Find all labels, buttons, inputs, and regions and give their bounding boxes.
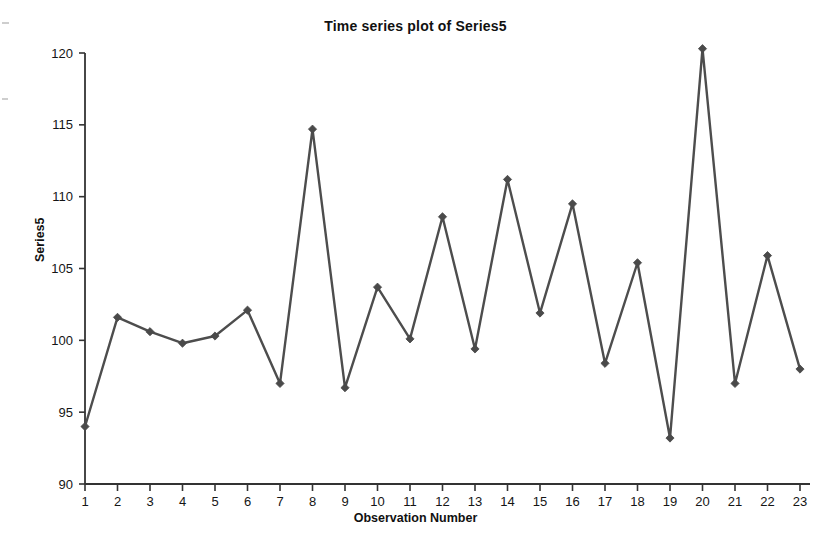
data-point-marker — [763, 251, 771, 259]
data-series-line — [85, 49, 800, 438]
x-tick-label: 8 — [309, 494, 316, 509]
data-point-marker — [471, 345, 479, 353]
x-tick-label: 4 — [179, 494, 186, 509]
data-point-marker — [146, 328, 154, 336]
y-tick-label: 90 — [59, 477, 73, 492]
scan-artifact — [2, 98, 8, 100]
data-point-marker — [503, 175, 511, 183]
x-tick-label: 16 — [565, 494, 579, 509]
data-point-marker — [601, 359, 609, 367]
x-tick-label: 20 — [695, 494, 709, 509]
time-series-chart: Time series plot of Series5 909510010511… — [0, 0, 831, 557]
x-tick-label: 1 — [81, 494, 88, 509]
data-point-marker — [568, 200, 576, 208]
x-tick-label: 7 — [276, 494, 283, 509]
x-tick-label: 5 — [211, 494, 218, 509]
x-tick-label: 6 — [244, 494, 251, 509]
y-tick-label: 105 — [51, 261, 73, 276]
x-tick-label: 17 — [598, 494, 612, 509]
x-tick-label: 3 — [146, 494, 153, 509]
x-tick-label: 2 — [114, 494, 121, 509]
data-point-marker — [666, 434, 674, 442]
x-tick-label: 22 — [760, 494, 774, 509]
data-point-marker — [81, 422, 89, 430]
x-tick-label: 21 — [728, 494, 742, 509]
data-point-marker — [796, 365, 804, 373]
data-point-marker — [113, 313, 121, 321]
y-tick-label: 120 — [51, 46, 73, 61]
y-axis-label: Series5 — [33, 248, 47, 262]
data-point-marker — [731, 379, 739, 387]
x-axis-ticks: 1234567891011121314151617181920212223 — [81, 484, 807, 509]
x-tick-label: 13 — [468, 494, 482, 509]
scan-artifact — [2, 22, 9, 24]
x-tick-label: 12 — [435, 494, 449, 509]
data-point-marker — [438, 213, 446, 221]
data-point-marker — [633, 259, 641, 267]
data-point-marker — [698, 45, 706, 53]
x-tick-label: 9 — [341, 494, 348, 509]
x-tick-label: 18 — [630, 494, 644, 509]
data-point-markers — [81, 45, 804, 443]
y-tick-label: 100 — [51, 333, 73, 348]
y-tick-label: 110 — [52, 189, 73, 204]
x-tick-label: 11 — [403, 494, 417, 509]
plot-area: 9095100105110115120 12345678910111213141… — [0, 0, 831, 557]
data-point-marker — [341, 384, 349, 392]
data-point-marker — [178, 339, 186, 347]
x-tick-label: 10 — [370, 494, 384, 509]
y-tick-label: 115 — [52, 117, 73, 132]
x-tick-label: 19 — [663, 494, 677, 509]
x-tick-label: 15 — [533, 494, 547, 509]
data-point-marker — [276, 379, 284, 387]
y-axis-ticks: 9095100105110115120 — [51, 46, 85, 492]
data-point-marker — [536, 309, 544, 317]
y-tick-label: 95 — [59, 405, 73, 420]
x-tick-label: 14 — [500, 494, 514, 509]
axes — [85, 53, 810, 484]
data-point-marker — [308, 125, 316, 133]
series-line — [85, 49, 800, 438]
x-axis-label: Observation Number — [0, 511, 831, 525]
x-tick-label: 23 — [793, 494, 807, 509]
